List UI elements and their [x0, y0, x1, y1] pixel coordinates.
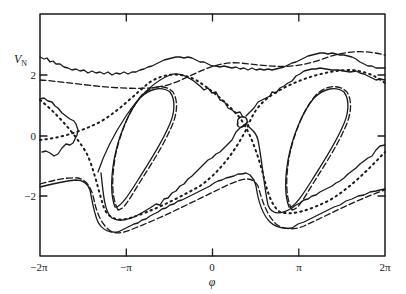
- separatrix-solid-left: [40, 98, 78, 156]
- y-tick-label-0: 0: [16, 131, 36, 142]
- lower-boundary-solid-curve: [40, 173, 385, 232]
- lower-boundary-dashed-curve: [40, 178, 385, 233]
- y-ticks-left: [40, 75, 47, 196]
- x-tick-label-neg-pi: −π: [111, 262, 141, 273]
- phase-plot: [0, 0, 406, 294]
- x-tick-label-0: 0: [197, 262, 227, 273]
- x-tick-label-2pi: 2π: [370, 262, 400, 273]
- y-tick-label-2: 2: [16, 70, 36, 81]
- x-ticks-top: [126, 14, 298, 21]
- x-ticks-bottom: [126, 249, 298, 256]
- y-ticks-right: [378, 75, 385, 196]
- x-tick-label-neg-2pi: −2π: [24, 262, 54, 273]
- outer-loop-right-solid-lower: [246, 124, 385, 213]
- inner-loop-right-solid: [286, 89, 348, 207]
- inner-loop-right-dashed: [287, 87, 351, 210]
- inner-loop-left-dashed: [113, 87, 177, 210]
- y-axis-label: V_NVN: [14, 54, 27, 69]
- y-tick-label-neg2: −2: [16, 191, 36, 202]
- outer-loop-left-solid-lower: [101, 122, 248, 220]
- x-axis-label: φ: [202, 277, 222, 288]
- plot-frame: [40, 14, 385, 256]
- x-tick-label-pi: π: [284, 262, 314, 273]
